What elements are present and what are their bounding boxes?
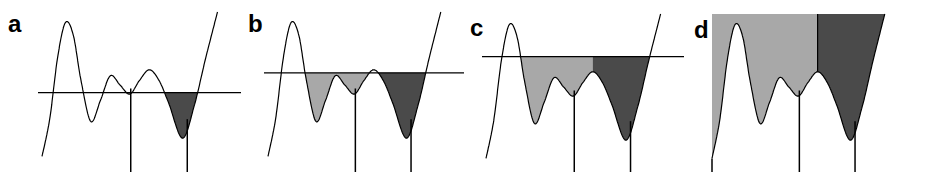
basin-dark — [593, 57, 661, 141]
panel-c: c — [460, 0, 690, 172]
basin-light — [712, 14, 818, 158]
basin-dark — [818, 14, 885, 140]
panel-plot — [690, 0, 926, 172]
basin-dark — [149, 93, 217, 139]
panel-a: a — [0, 0, 235, 172]
panel-d: d — [690, 0, 926, 172]
basin-dark — [374, 73, 441, 138]
panel-plot — [0, 0, 235, 172]
panel-plot — [240, 0, 465, 172]
basin-light — [521, 57, 593, 124]
panel-plot — [460, 0, 690, 172]
panel-b: b — [240, 0, 465, 172]
profile-curve — [42, 12, 218, 156]
